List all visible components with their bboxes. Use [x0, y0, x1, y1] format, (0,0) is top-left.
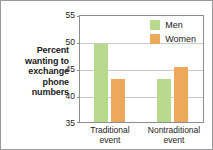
x-tick-label-nontraditional-line-1: Nontraditional — [141, 125, 207, 135]
x-tick-label-traditional-line-1: Traditional — [79, 125, 141, 135]
y-tick-mark-35 — [77, 122, 80, 123]
plot-inner: Men Women — [80, 16, 203, 122]
bar-nontraditional-women — [174, 67, 188, 122]
x-tick-label-traditional-line-2: event — [79, 135, 141, 145]
legend-item-men: Men — [150, 20, 196, 30]
y-tick-label-55: 55 — [55, 10, 75, 20]
y-tick-mark-45 — [77, 70, 80, 71]
legend: Men Women — [147, 18, 199, 46]
bar-nontraditional-men — [157, 79, 171, 122]
y-tick-label-40: 40 — [55, 91, 75, 101]
legend-label-men: Men — [165, 20, 183, 30]
bar-chart-figure: Percent wanting to exchange phone number… — [0, 0, 213, 150]
bar-traditional-men — [94, 44, 108, 122]
legend-label-women: Women — [165, 34, 196, 44]
y-tick-mark-50 — [77, 43, 80, 44]
y-tick-label-35: 35 — [55, 118, 75, 128]
y-tick-mark-40 — [77, 97, 80, 98]
bar-traditional-women — [111, 79, 125, 122]
x-tick-label-nontraditional: Nontraditional event — [141, 125, 207, 145]
legend-swatch-men-icon — [150, 20, 160, 30]
y-tick-label-45: 45 — [55, 64, 75, 74]
legend-item-women: Women — [150, 34, 196, 44]
y-tick-mark-55 — [77, 16, 80, 17]
legend-swatch-women-icon — [150, 34, 160, 44]
x-tick-label-nontraditional-line-2: event — [141, 135, 207, 145]
y-tick-label-50: 50 — [55, 37, 75, 47]
x-tick-label-traditional: Traditional event — [79, 125, 141, 145]
y-axis-title-line-4: phone — [3, 77, 69, 88]
plot-area: Men Women — [79, 15, 204, 123]
